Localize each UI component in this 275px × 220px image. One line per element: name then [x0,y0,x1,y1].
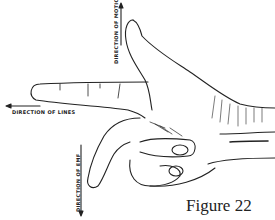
figure-caption: Figure 22 [186,196,252,216]
label-direction-of-lines: DIRECTION OF LINES [12,109,75,115]
label-direction-of-motion: DIRECTION OF MOTION [113,0,119,64]
label-direction-of-emf: DIRECTION OF EMF [75,154,81,212]
